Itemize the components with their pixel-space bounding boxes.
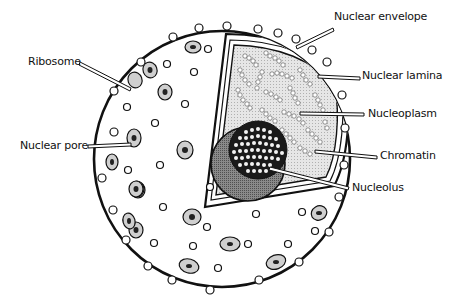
leader-nuclear-lamina <box>318 75 360 80</box>
label-ribosome: Ribosome <box>28 55 81 68</box>
label-nuclear-envelope: Nuclear envelope <box>334 10 427 23</box>
label-nucleolus: Nucleolus <box>352 181 404 194</box>
label-nucleoplasm: Nucleoplasm <box>368 107 437 120</box>
label-nuclear-pore: Nuclear pore <box>20 139 88 152</box>
leader-nucleoplasm <box>300 112 364 116</box>
label-chromatin: Chromatin <box>380 149 436 162</box>
leader-nuclear-envelope <box>296 28 334 49</box>
label-nuclear-lamina: Nuclear lamina <box>362 69 442 82</box>
